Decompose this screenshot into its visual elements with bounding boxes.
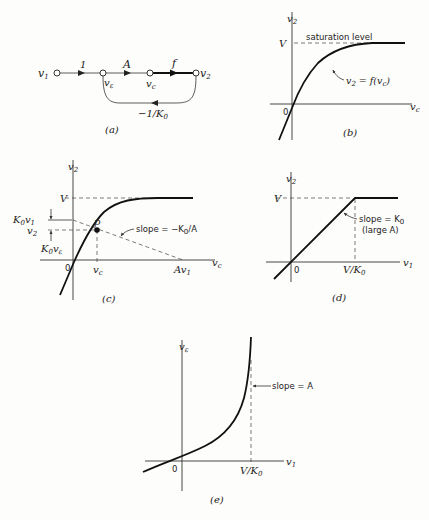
- leader-arrow-icon: [333, 70, 344, 80]
- curve-f-vc: [279, 43, 405, 140]
- panel-d-ideal-characteristic: v2 v1 V slope = K0 (large A) 0 V/K0 (d): [266, 172, 413, 303]
- caption-d: (d): [332, 292, 346, 303]
- gain-feedback: −1/K0: [138, 108, 169, 121]
- curve-ve-vs-v1: [143, 337, 251, 472]
- node-label-v2: v2: [200, 67, 211, 81]
- caption-e: (e): [210, 494, 224, 505]
- y-axis-label: v2: [287, 13, 298, 26]
- leader-arrow-icon: [121, 229, 134, 236]
- curve-f-vc: [60, 198, 193, 295]
- slope-label: slope = −K0/A: [136, 224, 197, 236]
- panel-c-graphical-solution: v2 vc V K0v1 v2 K0vε p slope = −K0/A 0 v…: [12, 160, 222, 304]
- origin-label: 0: [65, 263, 70, 273]
- vc-tick-label: vc: [93, 264, 103, 277]
- x-axis-label: vc: [212, 257, 222, 270]
- arrow-icon: [170, 70, 178, 77]
- origin-label: 0: [283, 107, 288, 117]
- node-v2: [193, 70, 199, 76]
- slope-note: (large A): [362, 225, 399, 235]
- panel-e-error-characteristic: vε v1 0 V/K0 slope = A (e): [143, 337, 313, 505]
- origin-label: 0: [172, 464, 177, 474]
- panel-b-nonlinear-characteristic: v2 vc V saturation level 0 v2 = f(vc) (b…: [270, 12, 420, 140]
- caption-c: (c): [102, 293, 116, 304]
- av1-tick-label: Av1: [173, 264, 191, 277]
- slope-label: slope = A: [272, 381, 313, 391]
- saturation-level-label: saturation level: [306, 32, 372, 42]
- node-label-v1: v1: [38, 67, 49, 81]
- gain-f: f: [171, 57, 178, 70]
- level-V-label: V: [279, 38, 288, 49]
- node-vc: [147, 70, 153, 76]
- arrow-icon: [151, 100, 158, 106]
- asymptote-tick-label: V/K0: [240, 465, 263, 478]
- y-axis-label: v2: [286, 173, 297, 186]
- origin-label: 0: [294, 265, 299, 275]
- node-label-vc: vc: [146, 78, 156, 91]
- level-V-label: V: [274, 193, 283, 204]
- piecewise-linear-curve: [274, 198, 398, 279]
- arrow-icon: [78, 70, 85, 76]
- knee-tick-label: V/K0: [343, 264, 366, 277]
- node-v1: [54, 70, 60, 76]
- panel-a-signal-flow-graph: v1 vε vc v2 1 A f −1/K0 (a): [38, 57, 211, 135]
- operating-point-p: [94, 227, 100, 233]
- x-axis-label: v1: [403, 257, 413, 270]
- caption-b: (b): [343, 127, 357, 138]
- level-V-label: V: [60, 193, 69, 204]
- node-ve: [100, 70, 106, 76]
- node-label-ve: vε: [104, 77, 114, 90]
- figure-canvas: v1 vε vc v2 1 A f −1/K0 (a) v2 vc V satu…: [0, 0, 429, 520]
- gain-A: A: [122, 58, 131, 71]
- k0ve-label: K0vε: [40, 243, 63, 256]
- point-p-label: p: [94, 216, 101, 227]
- curve-label: v2 = f(vc): [346, 75, 390, 88]
- x-axis-label: vc: [410, 101, 420, 114]
- y-axis-label: v2: [68, 161, 79, 174]
- y-axis-label: vε: [179, 341, 189, 354]
- x-axis-label: v1: [286, 456, 296, 469]
- v2-label: v2: [27, 225, 38, 238]
- caption-a: (a): [105, 124, 119, 135]
- gain-1: 1: [80, 59, 86, 70]
